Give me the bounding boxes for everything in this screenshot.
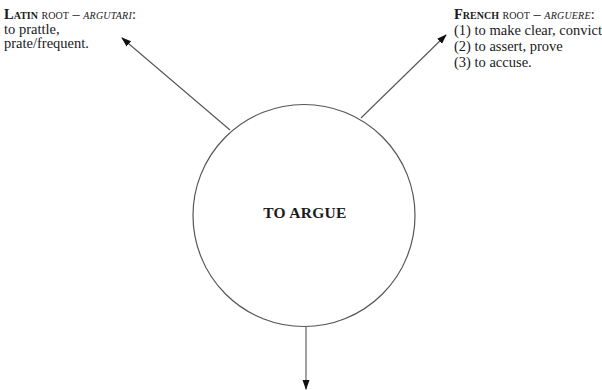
french-meaning-line: (2) to assert, prove [454,38,602,54]
latin-etymon: argutari [83,6,132,22]
latin-colon: : [132,6,136,22]
latin-language-label: Latin [4,6,38,22]
latin-meaning-line: to prattle, [4,22,136,37]
french-root-word: root [503,6,530,22]
french-colon: : [591,6,595,22]
latin-root-word: root [42,6,69,22]
french-language-label: French [454,6,499,22]
french-meaning-line: (3) to accuse. [454,54,602,70]
french-root-heading: French root – arguere: [454,6,602,22]
arrow-to-french-root [361,35,446,118]
french-dash: – [530,6,545,22]
french-etymon: arguere [544,6,590,22]
latin-meaning-line: prate/frequent. [4,36,136,51]
latin-root-heading: Latin root – argutari: [4,7,136,22]
central-concept-label: TO ARGUE [244,204,366,222]
french-meaning-line: (1) to make clear, convict [454,22,602,38]
latin-root-annotation: Latin root – argutari: to prattle, prate… [4,7,136,51]
french-root-annotation: French root – arguere: (1) to make clear… [454,6,602,70]
latin-dash: – [69,6,84,22]
arrow-to-latin-root [122,38,230,130]
